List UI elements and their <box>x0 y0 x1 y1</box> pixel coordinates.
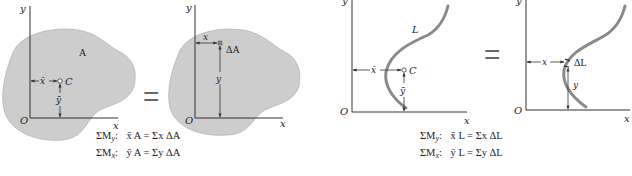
area-equations: ΣMy: x̄ A = Σx ΔA ΣMx: ȳ A = Σy ΔA <box>96 130 181 160</box>
axis-y-label: y <box>19 3 26 14</box>
curve-L <box>564 6 625 107</box>
equation-moment-y-area: ΣMy: x̄ A = Σx ΔA <box>96 130 181 143</box>
xbar-label: x̄ <box>40 76 45 86</box>
axis-y-label: y <box>185 2 192 13</box>
centroid-diagram: y x O A x̄ C ȳ = y x O x ΔA y <box>0 0 632 176</box>
x-label: x <box>542 57 547 67</box>
origin-label: O <box>20 115 28 126</box>
element-label: ΔA <box>226 44 240 55</box>
centroid-marker <box>58 79 62 83</box>
panel-area-centroid: y x O A x̄ C ȳ <box>3 3 136 140</box>
ybar-label: ȳ <box>399 86 406 96</box>
centroid-label: C <box>65 76 73 87</box>
axis-y-label: y <box>341 0 348 6</box>
line-equations: ΣMy: x̄ L = Σx ΔL ΣMx: ȳ L = Σy ΔL <box>420 130 503 160</box>
equals-sign-line: = <box>484 39 500 70</box>
axis-y-label: y <box>515 0 522 6</box>
panel-area-element: y x O x ΔA y <box>169 2 300 135</box>
origin-label: O <box>340 106 348 117</box>
panel-line-centroid: y x O L x̄ C ȳ <box>340 0 470 126</box>
centroid-label: C <box>409 65 417 76</box>
equation-moment-x-area: ΣMx: ȳ A = Σy ΔA <box>96 147 181 160</box>
equation-moment-y-line: ΣMy: x̄ L = Σx ΔL <box>420 130 503 143</box>
ybar-label: ȳ <box>55 95 62 105</box>
region-label: A <box>79 47 87 58</box>
y-label: y <box>572 80 579 90</box>
axis-x-label: x <box>464 115 470 126</box>
x-label: x <box>203 32 208 42</box>
centroid-marker <box>402 68 406 72</box>
area-element-marker <box>218 41 222 45</box>
xbar-label: x̄ <box>371 65 376 75</box>
panel-line-element: y x O x ΔL y <box>514 0 630 124</box>
axis-x-label: x <box>280 118 286 129</box>
equals-sign-area: = <box>143 81 159 112</box>
equation-moment-x-line: ΣMx: ȳ L = Σy ΔL <box>420 147 503 160</box>
origin-label: O <box>185 115 193 126</box>
curve-L <box>386 6 448 108</box>
element-label: ΔL <box>574 57 587 68</box>
curve-label: L <box>411 24 419 35</box>
axis-x-label: x <box>624 113 630 124</box>
origin-label: O <box>514 105 522 116</box>
y-label: y <box>215 74 222 84</box>
